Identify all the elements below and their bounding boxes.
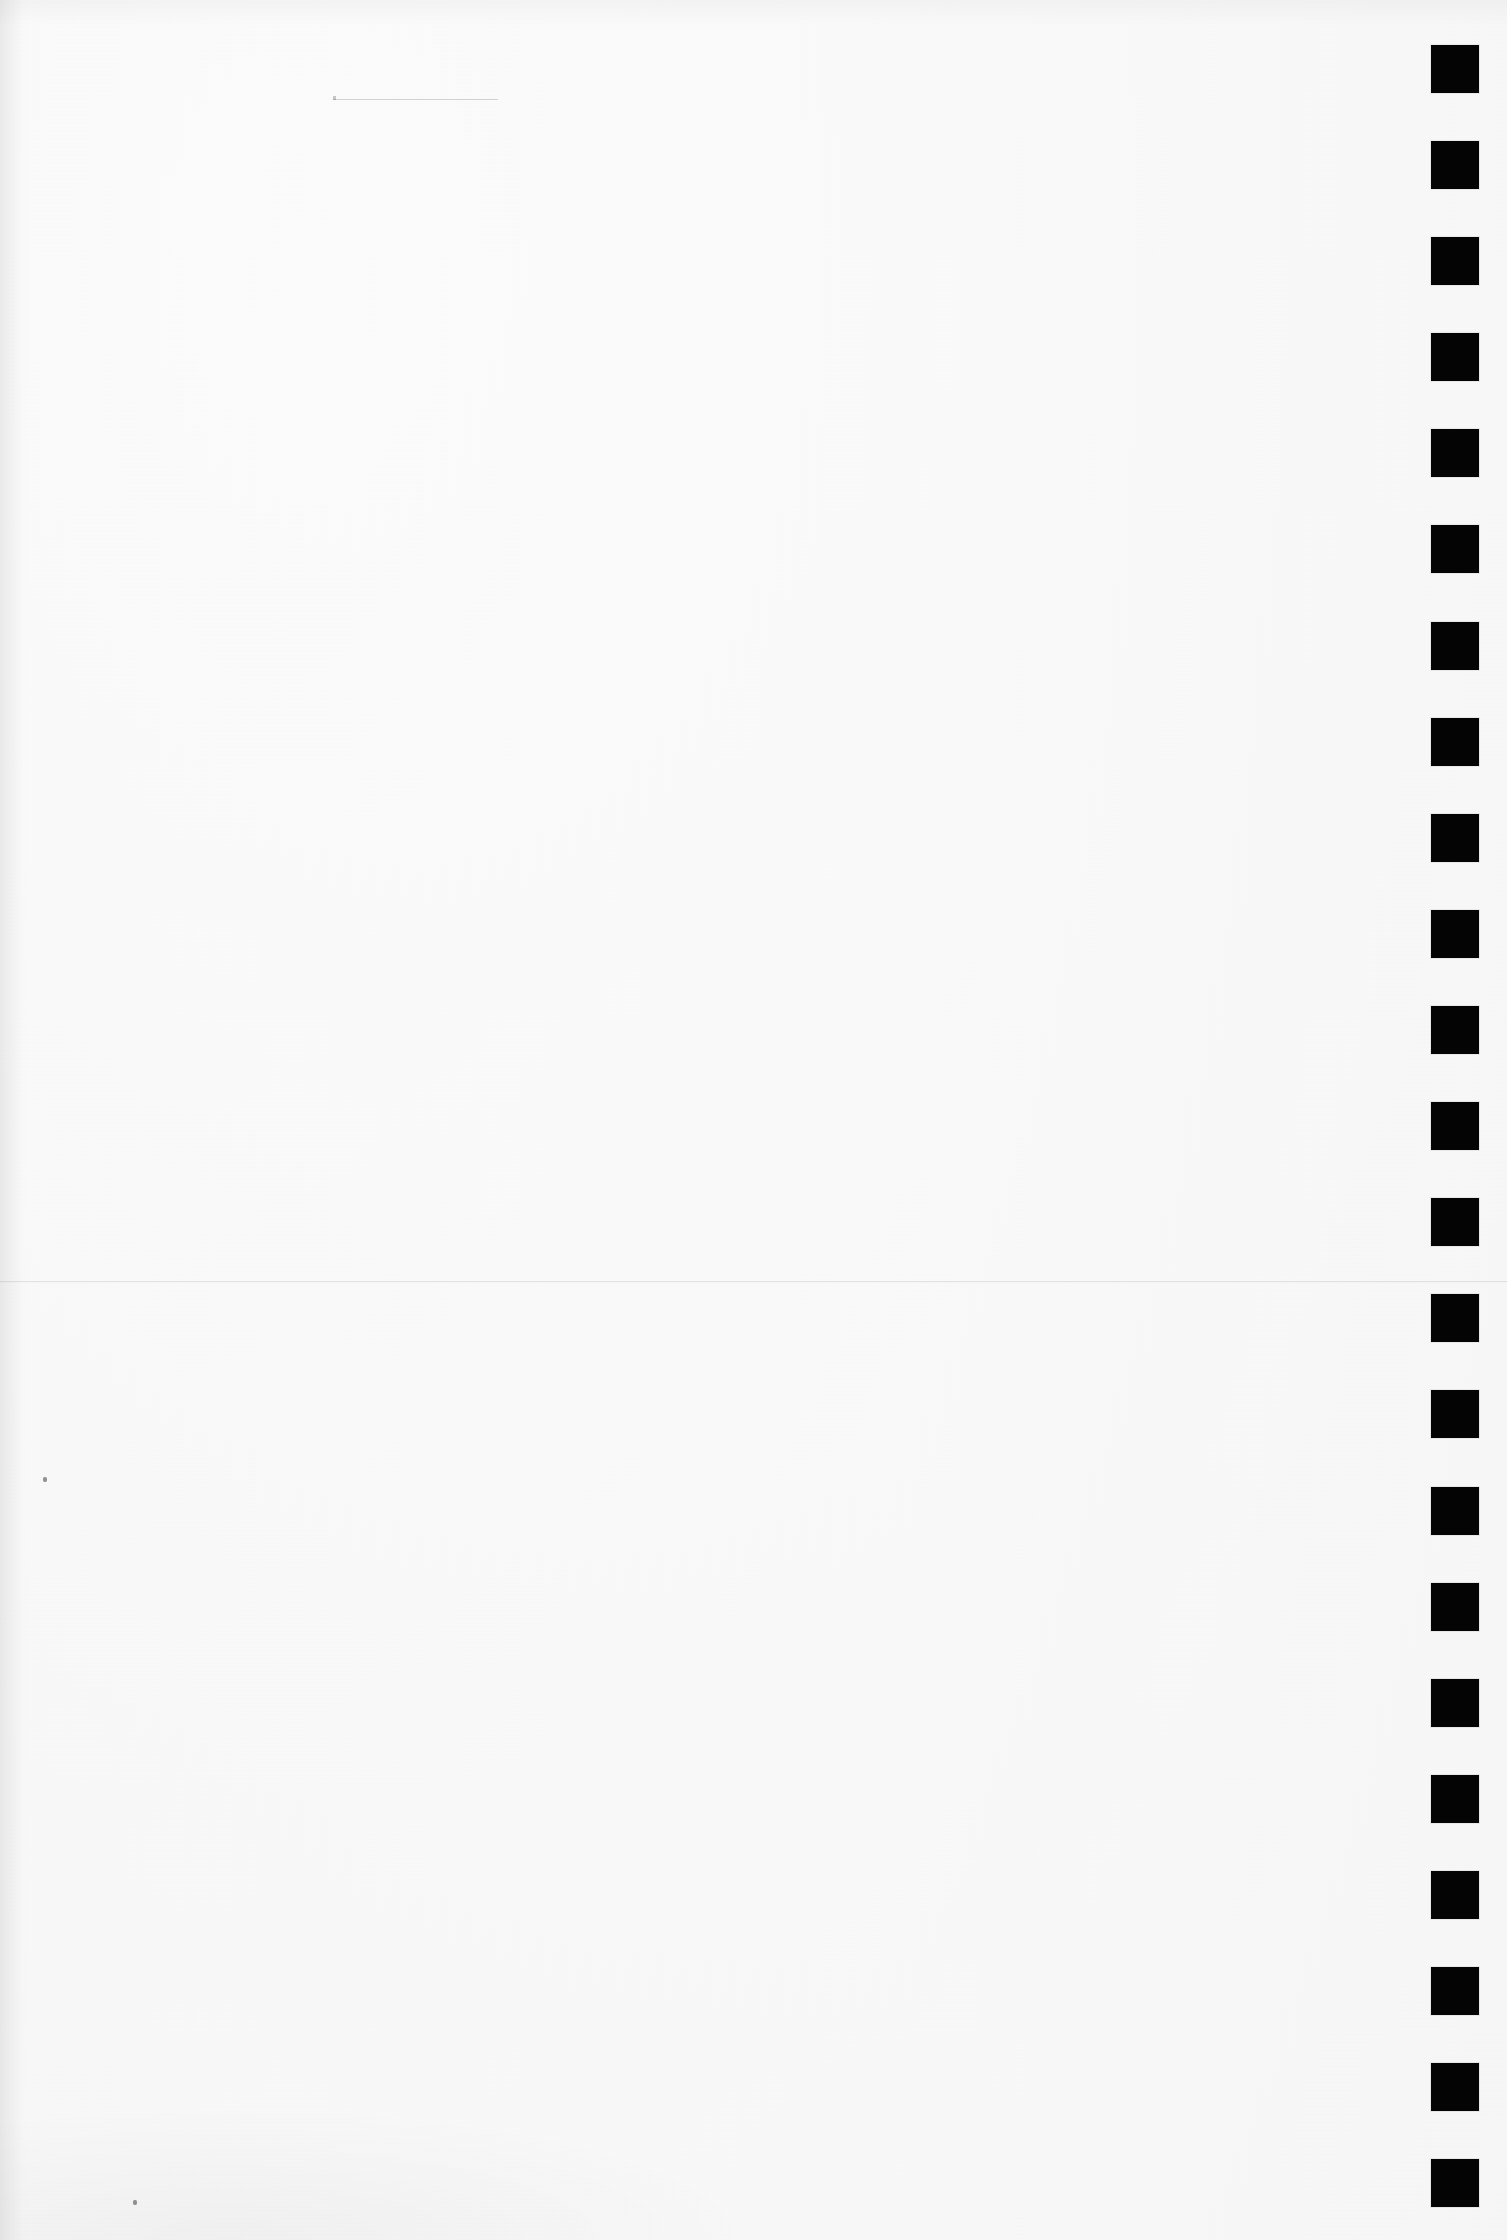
registration-mark [1431,429,1479,477]
top-edge-shadow [0,0,1507,26]
registration-mark [1431,525,1479,573]
registration-mark [1431,1679,1479,1727]
registration-mark [1431,622,1479,670]
registration-mark [1431,1487,1479,1535]
dust-speck [133,2200,137,2205]
registration-mark [1431,1967,1479,2015]
paper-grain-texture [0,0,1507,2240]
registration-mark [1431,45,1479,93]
registration-mark [1431,2159,1479,2207]
registration-mark [1431,333,1479,381]
registration-mark [1431,2063,1479,2111]
registration-mark [1431,1583,1479,1631]
registration-mark [1431,718,1479,766]
dust-speck [43,1477,47,1482]
scanned-page [0,0,1507,2240]
left-edge-shadow [0,0,22,2240]
page-seam-line [0,1281,1507,1282]
faint-hairline-rule [333,99,498,100]
registration-mark [1431,1294,1479,1342]
registration-mark [1431,237,1479,285]
registration-mark [1431,1775,1479,1823]
registration-mark-column [1431,0,1479,2240]
registration-mark [1431,1871,1479,1919]
registration-mark [1431,814,1479,862]
registration-mark [1431,1390,1479,1438]
registration-mark [1431,1006,1479,1054]
registration-mark [1431,1198,1479,1246]
registration-mark [1431,1102,1479,1150]
registration-mark [1431,910,1479,958]
registration-mark [1431,141,1479,189]
bottom-left-scan-smudge [0,2105,760,2240]
